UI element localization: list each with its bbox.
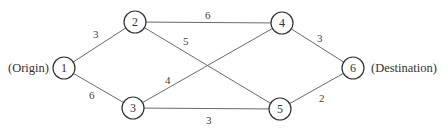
svg-text:5: 5 bbox=[277, 102, 283, 116]
edge-5-6 bbox=[280, 68, 353, 109]
svg-text:2: 2 bbox=[132, 15, 138, 29]
node-3: 3 bbox=[122, 97, 144, 119]
edge-3-4 bbox=[133, 23, 282, 108]
weight-5-6: 2 bbox=[319, 92, 325, 104]
weight-2-5: 5 bbox=[183, 35, 189, 47]
edge-3-5 bbox=[133, 108, 280, 109]
edge-2-4 bbox=[135, 22, 282, 23]
weight-3-5: 3 bbox=[206, 114, 212, 126]
weight-3-4: 4 bbox=[165, 74, 171, 86]
weight-1-2: 3 bbox=[93, 28, 99, 40]
network-diagram: 3 6 6 5 4 3 3 2 1 2 3 4 5 6 (Origin) (De… bbox=[0, 0, 448, 131]
edge-1-2 bbox=[64, 22, 135, 68]
weight-2-4: 6 bbox=[205, 9, 211, 21]
destination-label: (Destination) bbox=[371, 61, 437, 75]
svg-text:6: 6 bbox=[350, 61, 356, 75]
svg-text:3: 3 bbox=[130, 101, 136, 115]
weight-4-6: 3 bbox=[317, 32, 323, 44]
edge-4-6 bbox=[282, 23, 353, 68]
node-1: 1 bbox=[53, 57, 75, 79]
svg-text:4: 4 bbox=[279, 16, 285, 30]
node-5: 5 bbox=[269, 98, 291, 120]
node-4: 4 bbox=[271, 12, 293, 34]
edge-1-3 bbox=[64, 68, 133, 108]
origin-label: (Origin) bbox=[8, 61, 49, 75]
node-6: 6 bbox=[342, 57, 364, 79]
svg-text:1: 1 bbox=[61, 61, 67, 75]
weight-1-3: 6 bbox=[89, 89, 95, 101]
node-2: 2 bbox=[124, 11, 146, 33]
